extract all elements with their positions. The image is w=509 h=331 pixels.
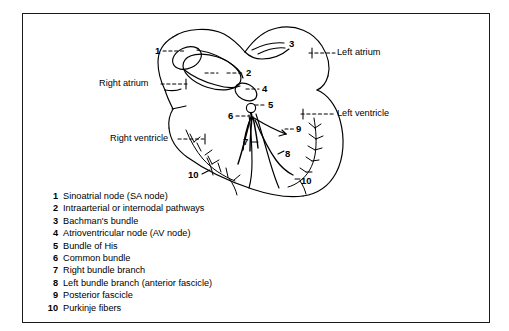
legend-item: 3 Bachman's bundle [44, 215, 364, 227]
legend-number: 9 [44, 289, 58, 301]
label-left-atrium: Left atrium [337, 47, 380, 57]
heart-conduction-figure: Left atrium Right atrium Left ventricle … [0, 0, 509, 331]
callout-3: 3 [289, 38, 294, 49]
callout-8: 8 [285, 148, 290, 159]
legend-item: 10 Purkinje fibers [44, 302, 364, 314]
legend-label: Bachman's bundle [63, 215, 138, 227]
legend-item: 6 Common bundle [44, 252, 364, 264]
legend-label: Sinoatrial node (SA node) [63, 190, 168, 202]
legend-number: 1 [44, 190, 58, 202]
legend-number: 10 [44, 302, 58, 314]
legend-item: 7 Right bundle branch [44, 264, 364, 276]
label-right-atrium: Right atrium [99, 78, 149, 88]
callout-6: 6 [228, 110, 233, 121]
callout-10a: 10 [188, 169, 199, 180]
legend-item: 5 Bundle of His [44, 240, 364, 252]
callout-5: 5 [268, 99, 273, 110]
legend-number: 4 [44, 227, 58, 239]
callout-1: 1 [155, 45, 160, 56]
legend-label: Intraarterial or internodal pathways [63, 202, 204, 214]
callout-7: 7 [243, 136, 248, 147]
callout-2: 2 [246, 67, 251, 78]
legend-label: Right bundle branch [63, 264, 145, 276]
legend-label: Common bundle [63, 252, 130, 264]
legend-label: Atrioventricular node (AV node) [63, 227, 191, 239]
legend-item: 2 Intraarterial or internodal pathways [44, 202, 364, 214]
legend-number: 6 [44, 252, 58, 264]
legend-number: 3 [44, 215, 58, 227]
callout-10b: 10 [301, 175, 312, 186]
callout-9: 9 [296, 123, 301, 134]
legend-number: 5 [44, 240, 58, 252]
legend-item: 9 Posterior fascicle [44, 289, 364, 301]
legend-label: Left bundle branch (anterior fascicle) [63, 277, 212, 289]
legend-label: Purkinje fibers [63, 302, 121, 314]
label-right-ventricle: Right ventricle [110, 133, 168, 143]
legend-item: 4 Atrioventricular node (AV node) [44, 227, 364, 239]
legend-number: 8 [44, 277, 58, 289]
legend-item: 8 Left bundle branch (anterior fascicle) [44, 277, 364, 289]
legend-number: 7 [44, 264, 58, 276]
legend-item: 1 Sinoatrial node (SA node) [44, 190, 364, 202]
legend-label: Bundle of His [63, 240, 118, 252]
legend-list: 1 Sinoatrial node (SA node) 2 Intraarter… [44, 190, 364, 314]
callout-4: 4 [262, 83, 267, 94]
legend-label: Posterior fascicle [63, 289, 133, 301]
legend-number: 2 [44, 202, 58, 214]
label-left-ventricle: Left ventricle [337, 108, 389, 118]
